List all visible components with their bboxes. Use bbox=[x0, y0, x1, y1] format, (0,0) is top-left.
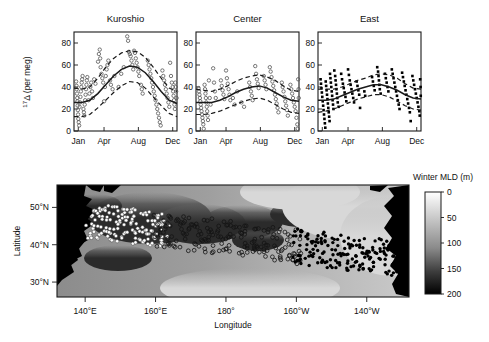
station-marker bbox=[109, 218, 112, 221]
data-point bbox=[291, 96, 294, 99]
data-point bbox=[372, 80, 375, 83]
data-point bbox=[138, 74, 141, 77]
data-point bbox=[222, 93, 225, 96]
data-point bbox=[419, 95, 422, 98]
station-marker bbox=[393, 261, 396, 264]
data-point bbox=[227, 88, 230, 91]
station-marker bbox=[342, 253, 345, 256]
station-marker bbox=[346, 253, 349, 256]
data-point bbox=[132, 68, 135, 71]
station-marker bbox=[134, 236, 137, 239]
data-point bbox=[376, 66, 379, 69]
station-marker bbox=[299, 234, 302, 237]
y-tick-label: 80 bbox=[306, 38, 316, 48]
station-marker bbox=[375, 252, 378, 255]
data-point bbox=[224, 69, 227, 72]
data-point bbox=[290, 92, 293, 95]
data-point bbox=[85, 79, 88, 82]
station-marker bbox=[371, 248, 374, 251]
station-marker bbox=[370, 268, 373, 271]
station-marker bbox=[308, 250, 311, 253]
data-point bbox=[79, 95, 82, 98]
y-tick-label: 20 bbox=[184, 104, 194, 114]
map-x-axis-label: Longitude bbox=[214, 320, 252, 330]
station-marker bbox=[305, 243, 308, 246]
station-marker bbox=[107, 204, 110, 207]
station-marker bbox=[395, 270, 398, 273]
data-point bbox=[387, 90, 390, 93]
data-point bbox=[353, 101, 356, 104]
data-point bbox=[402, 76, 405, 79]
shallow-mld-region bbox=[240, 174, 360, 210]
data-point bbox=[401, 71, 404, 74]
map-container: 50°N40°N30°N140°E160°E180°160°W140°WLati… bbox=[12, 172, 444, 330]
station-marker bbox=[124, 219, 127, 222]
data-point bbox=[256, 82, 259, 85]
station-marker bbox=[311, 248, 314, 251]
data-point bbox=[348, 74, 351, 77]
station-marker bbox=[122, 223, 125, 226]
station-marker bbox=[95, 236, 98, 239]
station-marker bbox=[342, 239, 345, 242]
x-tick-label: Aug bbox=[131, 136, 146, 146]
station-marker bbox=[116, 227, 119, 230]
data-point bbox=[415, 92, 418, 95]
data-point bbox=[76, 113, 79, 116]
station-marker bbox=[314, 244, 317, 247]
station-marker bbox=[355, 244, 358, 247]
station-marker bbox=[383, 246, 386, 249]
data-point bbox=[84, 93, 87, 96]
data-point bbox=[407, 102, 410, 105]
data-point bbox=[198, 96, 201, 99]
data-point bbox=[126, 39, 129, 42]
x-tick-label: Jan bbox=[193, 136, 207, 146]
station-marker bbox=[126, 215, 129, 218]
y-tick-label: 0 bbox=[66, 126, 71, 136]
station-marker bbox=[373, 239, 376, 242]
data-point bbox=[324, 80, 327, 83]
data-point bbox=[96, 60, 99, 63]
station-marker bbox=[314, 240, 317, 243]
data-point bbox=[198, 93, 201, 96]
data-point bbox=[164, 88, 167, 91]
station-marker bbox=[135, 222, 138, 225]
data-point bbox=[170, 81, 173, 84]
station-marker bbox=[107, 211, 110, 214]
station-marker bbox=[304, 257, 307, 260]
data-point bbox=[255, 78, 258, 81]
station-marker bbox=[338, 252, 341, 255]
station-marker bbox=[390, 274, 393, 277]
data-point bbox=[148, 68, 151, 71]
data-point bbox=[295, 116, 298, 119]
data-point bbox=[322, 104, 325, 107]
x-tick-label: Aug bbox=[375, 136, 390, 146]
station-marker bbox=[366, 254, 369, 257]
data-point bbox=[130, 59, 133, 62]
station-marker bbox=[100, 232, 103, 235]
station-marker bbox=[134, 241, 137, 244]
station-marker bbox=[146, 237, 149, 240]
station-marker bbox=[380, 238, 383, 241]
station-marker bbox=[125, 231, 128, 234]
data-point bbox=[99, 66, 102, 69]
station-marker bbox=[357, 268, 360, 271]
data-point bbox=[201, 119, 204, 122]
data-point bbox=[86, 75, 89, 78]
data-point bbox=[332, 103, 335, 106]
data-point bbox=[214, 96, 217, 99]
station-marker bbox=[336, 238, 339, 241]
data-point bbox=[289, 83, 292, 86]
data-point bbox=[272, 84, 275, 87]
station-marker bbox=[298, 259, 301, 262]
data-point bbox=[111, 88, 114, 91]
data-point bbox=[334, 79, 337, 82]
data-point bbox=[268, 66, 271, 69]
y-tick-label: 20 bbox=[306, 104, 316, 114]
data-point bbox=[141, 92, 144, 95]
map-y-tick-label: 50°N bbox=[30, 202, 49, 212]
data-point bbox=[404, 89, 407, 92]
data-point bbox=[203, 83, 206, 86]
station-marker bbox=[146, 232, 149, 235]
panel-title-center: Center bbox=[233, 13, 262, 24]
data-point bbox=[200, 113, 203, 116]
